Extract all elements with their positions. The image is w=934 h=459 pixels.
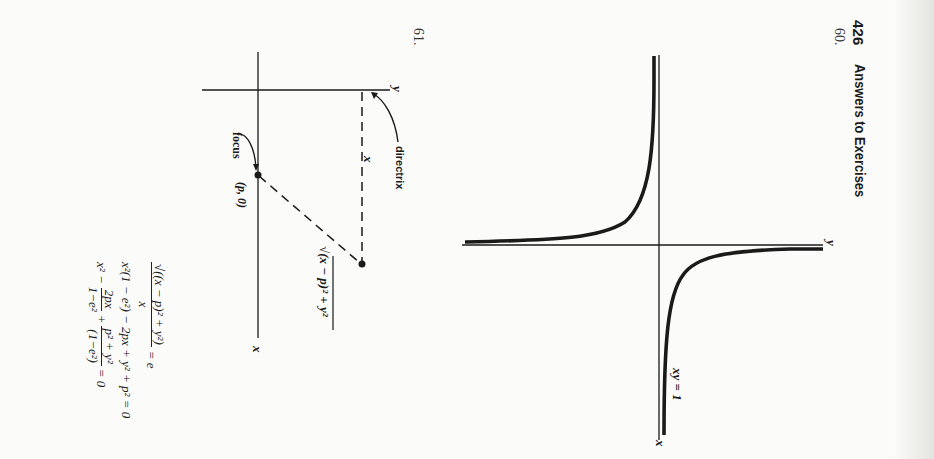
hyperbola-y-label: y xyxy=(825,240,838,246)
conic-x-label: x xyxy=(251,346,264,353)
equation-3-rhs: = 0 xyxy=(95,369,108,388)
hyperbola-x-label: x xyxy=(654,440,667,447)
equation-1-fraction: √((x − p)² + y²) x xyxy=(137,262,166,347)
point-on-curve xyxy=(359,261,366,268)
equation-3-plus: + xyxy=(95,315,108,324)
hyperbola-branch-left xyxy=(465,56,654,242)
equation-3-frac1-denominator: 1−e² xyxy=(87,287,101,312)
focus-point xyxy=(255,172,262,179)
conic-definition-figure xyxy=(202,52,398,338)
conic-y-label: y xyxy=(391,86,404,92)
focus-label: focus xyxy=(231,132,243,159)
equation-3-fraction-2: p² + y² (1−e²) xyxy=(87,326,116,365)
equation-3-fraction-1: 2px 1−e² xyxy=(87,287,116,312)
equation-3: x² − 2px 1−e² + p² + y² (1−e²) = 0 xyxy=(87,262,116,418)
focus-distance-label: √(x − p)² + y² xyxy=(318,246,331,317)
directrix-label: directrix xyxy=(394,146,405,189)
equation-3-frac2-numerator: p² + y² xyxy=(101,326,116,365)
equation-3-frac2-denominator: (1−e²) xyxy=(87,329,101,363)
focus-coordinates-label: (p, 0) xyxy=(236,182,248,208)
equation-1-denominator: x xyxy=(137,302,151,308)
equation-2: x²(1 − e²) − 2px + y² + p² = 0 xyxy=(120,262,133,418)
equation-3-lead: x² − xyxy=(95,262,108,284)
hyperbola-figure xyxy=(462,55,823,440)
hyperbola-branch-right xyxy=(664,249,823,435)
distance-to-focus-line xyxy=(259,176,360,263)
equation-block: √((x − p)² + y²) x = e x²(1 − e²) − 2px … xyxy=(87,262,166,418)
directrix-distance-label: x xyxy=(362,156,375,163)
hyperbola-equation-label: xy = 1 xyxy=(671,368,684,401)
equation-1: √((x − p)² + y²) x = e xyxy=(137,262,166,418)
equation-1-numerator: √((x − p)² + y²) xyxy=(151,262,166,347)
equation-1-rhs: = e xyxy=(145,351,158,369)
equation-3-frac1-numerator: 2px xyxy=(101,288,116,311)
directrix-leader-line xyxy=(372,93,398,142)
